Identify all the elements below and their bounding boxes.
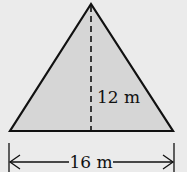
height-label: 12 m bbox=[97, 87, 140, 107]
triangle-diagram: 12 m 16 m bbox=[0, 0, 187, 172]
base-label: 16 m bbox=[69, 152, 112, 172]
